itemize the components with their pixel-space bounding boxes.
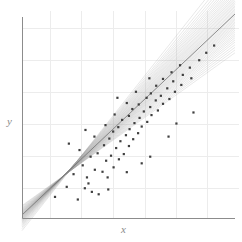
- scatter-point: [155, 99, 157, 101]
- scatter-point: [150, 114, 152, 116]
- scatter-point: [189, 67, 191, 69]
- scatter-point: [133, 122, 135, 124]
- mean-regression-line: [22, 14, 235, 215]
- scatter-point: [162, 78, 164, 80]
- scatter-point: [190, 77, 192, 79]
- scatter-point: [166, 87, 168, 89]
- scatter-point: [84, 129, 86, 131]
- scatter-point: [162, 103, 164, 105]
- scatter-point: [104, 124, 106, 126]
- scatter-point: [179, 64, 181, 66]
- scatter-point: [97, 152, 99, 154]
- scatter-point: [98, 193, 100, 195]
- scatter-point: [117, 126, 119, 128]
- scatter-point: [146, 97, 148, 99]
- scatter-point: [91, 191, 93, 193]
- scatter-point: [172, 80, 174, 82]
- scatter-point: [86, 176, 88, 178]
- scatter-point: [123, 153, 125, 155]
- scatter-point: [112, 166, 114, 168]
- scatter-point: [148, 77, 150, 79]
- scatter-point: [103, 144, 105, 146]
- scatter-point: [68, 143, 70, 145]
- scatter-point: [143, 110, 145, 112]
- plot-canvas: [0, 0, 242, 242]
- scatter-point: [137, 132, 139, 134]
- scatter-point: [110, 155, 112, 157]
- scatter-point: [125, 134, 127, 136]
- scatter-point: [105, 160, 107, 162]
- scatter-point: [107, 176, 109, 178]
- scatter-point: [138, 103, 140, 105]
- mean-regression-line-path: [22, 14, 235, 215]
- scatter-point: [118, 158, 120, 160]
- scatter-point: [77, 198, 79, 200]
- scatter-point: [94, 169, 96, 171]
- scatter-point: [114, 113, 116, 115]
- scatter-point: [138, 117, 140, 119]
- scatter-point: [128, 115, 130, 117]
- scatter-point: [174, 91, 176, 93]
- y-axis-label: y: [7, 116, 12, 127]
- scatter-point: [170, 71, 172, 73]
- scatter-point: [180, 84, 182, 86]
- scatter-point: [126, 171, 128, 173]
- scatter-point: [107, 188, 109, 190]
- scatter-point: [128, 128, 130, 130]
- scatter-point: [119, 140, 121, 142]
- scatter-point: [89, 156, 91, 158]
- scatter-point: [101, 171, 103, 173]
- scatter-point: [168, 98, 170, 100]
- scatter-point: [132, 138, 134, 140]
- scatter-point: [54, 196, 56, 198]
- scatter-point: [149, 156, 151, 158]
- scatter-regression-figure: y x: [0, 0, 242, 242]
- scatter-point: [175, 122, 177, 124]
- x-axis-label: x: [121, 224, 126, 235]
- scatter-point: [160, 95, 162, 97]
- scatter-point: [112, 130, 114, 132]
- scatter-point: [72, 173, 74, 175]
- scatter-point: [93, 136, 95, 138]
- scatter-point: [126, 102, 128, 104]
- scatter-point: [116, 97, 118, 99]
- scatter-point: [135, 91, 137, 93]
- scatter-point: [108, 138, 110, 140]
- scatter-point: [87, 182, 89, 184]
- scatter-point: [205, 52, 207, 54]
- scatter-point: [141, 125, 143, 127]
- scatter-point: [182, 74, 184, 76]
- scatter-point: [78, 149, 80, 151]
- scatter-point: [121, 119, 123, 121]
- scatter-point: [155, 85, 157, 87]
- scatter-point: [167, 136, 169, 138]
- scatter-point: [131, 108, 133, 110]
- scatter-point: [84, 187, 86, 189]
- scatter-point: [149, 106, 151, 108]
- scatter-point: [198, 59, 200, 61]
- scatter-point: [157, 109, 159, 111]
- scatter-point: [141, 162, 143, 164]
- scatter-point: [146, 121, 148, 123]
- scatter-point: [213, 44, 215, 46]
- scatter-point: [150, 92, 152, 94]
- scatter-point: [128, 145, 130, 147]
- scatter-point: [66, 186, 68, 188]
- scatter-point: [115, 147, 117, 149]
- scatter-point: [192, 111, 194, 113]
- scatter-point: [82, 164, 84, 166]
